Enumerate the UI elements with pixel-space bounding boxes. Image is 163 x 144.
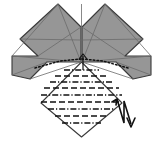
origami-diagram-canvas	[0, 0, 163, 144]
origami-diagram-svg	[0, 0, 163, 144]
